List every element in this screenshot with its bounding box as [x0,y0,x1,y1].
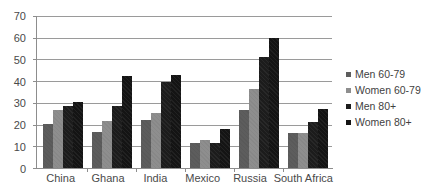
bar[interactable] [92,132,102,168]
bar[interactable] [73,102,83,168]
legend-swatch-icon [346,72,351,77]
y-axis-tick-label: 20 [14,120,26,131]
bar[interactable] [161,82,171,168]
y-axis-tick-label: 10 [14,142,26,153]
x-axis-labels: ChinaGhanaIndiaMexicoRussiaSouth Africa [37,172,333,185]
bar-group [38,16,87,168]
bar[interactable] [200,140,210,168]
x-axis-category-label: Mexico [179,172,226,185]
bar[interactable] [171,75,181,168]
legend-swatch-icon [346,120,351,125]
bar-group [185,16,234,168]
bar[interactable] [308,122,318,168]
bar[interactable] [318,109,328,168]
bar-group [136,16,185,168]
x-axis-category-label: Ghana [84,172,131,185]
bar[interactable] [249,89,259,168]
y-axis-tick: 50 [33,59,37,60]
y-axis-tick: 60 [33,38,37,39]
plot-area: 010203040506070 [36,16,332,168]
bar[interactable] [239,110,249,168]
bar[interactable] [112,106,122,168]
legend-label: Men 60-79 [355,68,405,80]
bar[interactable] [190,143,200,168]
legend-label: Women 80+ [355,116,412,128]
x-axis-category-label: South Africa [274,172,333,185]
x-axis-line [36,168,333,169]
chart-legend: Men 60-79Women 60-79Men 80+Women 80+ [346,66,441,130]
plot-frame: 010203040506070 [36,16,332,168]
bar[interactable] [122,76,132,168]
legend-swatch-icon [346,104,351,109]
legend-swatch-icon [346,88,351,93]
y-axis-tick-label: 50 [14,54,26,65]
y-axis-tick: 10 [33,146,37,147]
y-axis-tick-label: 70 [14,11,26,22]
bar-groups [38,16,332,168]
y-axis-tick-label: 30 [14,98,26,109]
grouped-bar-chart: 010203040506070 ChinaGhanaIndiaMexicoRus… [0,0,441,196]
x-axis-category-label: Russia [226,172,273,185]
bar[interactable] [63,106,73,168]
y-axis-tick-label: 0 [20,164,26,175]
y-axis-tick: 40 [33,81,37,82]
y-axis-tick: 30 [33,103,37,104]
bar[interactable] [141,120,151,168]
x-axis-category-label: India [132,172,179,185]
y-axis-tick-label: 40 [14,76,26,87]
bar[interactable] [298,133,308,168]
bar[interactable] [288,133,298,168]
y-axis-tick: 20 [33,125,37,126]
bar[interactable] [269,38,279,168]
bar[interactable] [259,57,269,168]
bar[interactable] [43,124,53,169]
x-axis-category-label: China [37,172,84,185]
bar[interactable] [102,121,112,168]
legend-item[interactable]: Women 80+ [346,114,441,130]
legend-item[interactable]: Men 60-79 [346,66,441,82]
legend-item[interactable]: Men 80+ [346,98,441,114]
y-axis-tick-label: 60 [14,32,26,43]
y-axis-tick: 70 [33,16,37,17]
bar[interactable] [151,113,161,168]
bar[interactable] [210,143,220,168]
legend-label: Men 80+ [355,100,396,112]
bar[interactable] [220,129,230,168]
bar-group [283,16,332,168]
bar-group [234,16,283,168]
bar[interactable] [53,110,63,168]
legend-item[interactable]: Women 60-79 [346,82,441,98]
bar-group [87,16,136,168]
legend-label: Women 60-79 [355,84,421,96]
